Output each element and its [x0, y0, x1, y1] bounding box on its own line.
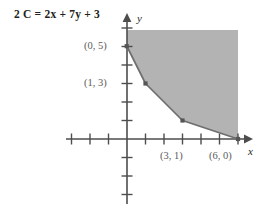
- point-label-1-3: (1, 3): [84, 77, 107, 88]
- linear-programming-figure: 2 C = 2x + 7y + 3: [0, 0, 270, 208]
- x-axis-arrowhead: [244, 135, 253, 144]
- y-axis-arrowhead: [123, 13, 132, 22]
- vertex-marker-3-1: [180, 118, 184, 122]
- y-axis-label: y: [137, 12, 142, 24]
- point-label-0-5: (0, 5): [84, 40, 107, 51]
- vertex-marker-6-0: [236, 137, 240, 141]
- x-axis-label: x: [248, 145, 253, 157]
- point-label-6-0: (6, 0): [209, 150, 232, 161]
- vertex-marker-1-3: [143, 81, 147, 85]
- vertex-marker-0-5: [125, 44, 129, 48]
- point-label-3-1: (3, 1): [160, 150, 183, 161]
- coordinate-plot: [0, 0, 270, 208]
